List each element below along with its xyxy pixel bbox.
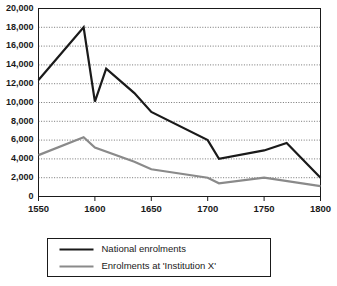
- chart-legend: National enrolmentsEnrolments at 'Instit…: [48, 239, 271, 277]
- y-axis-tick-label: 20,000: [6, 3, 34, 13]
- x-axis-tick-label: 1550: [28, 203, 49, 214]
- x-axis-tick-label: 1650: [141, 203, 162, 214]
- y-axis: 02,0004,0006,0008,00010,00012,00014,0001…: [6, 3, 34, 201]
- plot-area: [39, 9, 321, 197]
- legend-label: National enrolments: [102, 243, 187, 254]
- legend-label: Enrolments at 'Institution X': [102, 260, 217, 271]
- x-axis-tick-label: 1700: [197, 203, 218, 214]
- y-axis-tick-label: 14,000: [6, 59, 34, 69]
- chart-canvas: 02,0004,0006,0008,00010,00012,00014,0001…: [0, 0, 337, 286]
- y-axis-tick-label: 16,000: [6, 40, 34, 50]
- y-axis-tick-label: 18,000: [6, 22, 34, 32]
- x-axis: 155016001650170017501800: [28, 197, 331, 214]
- y-axis-tick-label: 10,000: [6, 97, 34, 107]
- x-axis-tick-label: 1800: [310, 203, 331, 214]
- y-axis-tick-label: 6,000: [11, 134, 34, 144]
- x-axis-tick-label: 1600: [84, 203, 105, 214]
- enrolments-line-chart: 02,0004,0006,0008,00010,00012,00014,0001…: [0, 0, 337, 286]
- x-axis-tick-label: 1750: [254, 203, 275, 214]
- y-axis-tick-label: 12,000: [6, 78, 34, 88]
- y-axis-tick-label: 8,000: [11, 116, 34, 126]
- y-axis-tick-label: 2,000: [11, 172, 34, 182]
- y-axis-tick-label: 4,000: [11, 153, 34, 163]
- y-axis-tick-label: 0: [28, 191, 33, 201]
